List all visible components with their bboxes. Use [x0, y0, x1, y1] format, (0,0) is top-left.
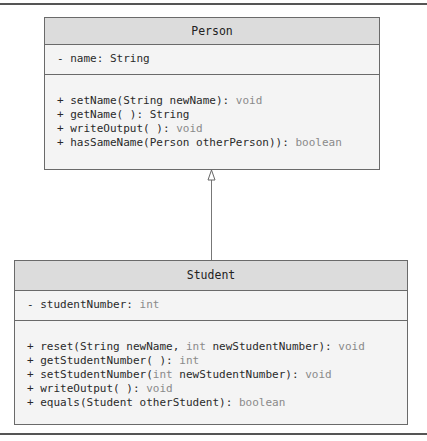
class-student-methods: + reset(String newName, int newStudentNu… [15, 321, 407, 410]
class-student-attributes: - studentNumber: int [15, 291, 407, 321]
method-writeoutput: + writeOutput( ): void [57, 122, 379, 136]
method-reset: + reset(String newName, int newStudentNu… [27, 340, 407, 354]
attribute-name: - name: String [57, 52, 379, 66]
inheritance-line [211, 180, 212, 260]
class-person-name: Person [45, 18, 379, 45]
method-hassamename: + hasSameName(Person otherPerson)): bool… [57, 136, 379, 150]
class-student-name: Student [15, 261, 407, 291]
top-rule [0, 3, 427, 5]
method-getstudentnumber: + getStudentNumber( ): int [27, 354, 407, 368]
class-student: Student - studentNumber: int + reset(Str… [14, 260, 408, 425]
class-person-attributes: - name: String [45, 45, 379, 75]
bottom-rule [0, 433, 427, 435]
method-writeoutput: + writeOutput( ): void [27, 382, 407, 396]
method-getname: + getName( ): String [57, 108, 379, 122]
method-equals: + equals(Student otherStudent): boolean [27, 396, 407, 410]
class-person-methods: + setName(String newName): void + getNam… [45, 75, 379, 150]
method-setstudentnumber: + setStudentNumber(int newStudentNumber)… [27, 368, 407, 382]
attribute-studentnumber: - studentNumber: int [27, 298, 407, 312]
method-setname: + setName(String newName): void [57, 94, 379, 108]
generalization-arrow-icon [206, 169, 217, 181]
class-person: Person - name: String + setName(String n… [44, 17, 380, 170]
